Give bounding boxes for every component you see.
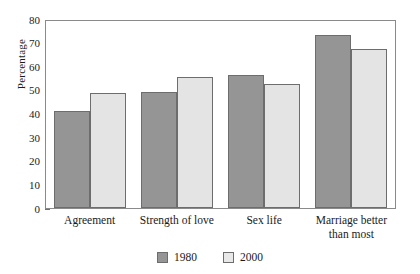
y-axis-title: Percentage [15, 9, 27, 119]
x-axis-label-2: Strength of love [133, 213, 220, 227]
x-axis-label-4: Marriage betterthan most [308, 213, 395, 241]
y-axis-tick-label: 0 [35, 203, 46, 214]
bar-2000-3 [264, 84, 300, 208]
legend-item-2000: 2000 [223, 252, 263, 264]
x-axis-label-line: Agreement [46, 213, 133, 227]
bar-1980-4 [315, 35, 351, 208]
chart-legend: 19802000 [0, 252, 420, 264]
y-axis-tick-label: 40 [29, 109, 45, 120]
light-gray-swatch [223, 252, 234, 263]
dark-gray-swatch [157, 252, 168, 263]
y-axis-tick-label: 70 [29, 38, 45, 49]
bar-1980-1 [54, 111, 90, 208]
bar-1980-3 [228, 75, 264, 208]
y-axis-tick-label: 80 [29, 14, 45, 25]
x-axis-label-line: Marriage better [308, 213, 395, 227]
bar-chart-figure: Percentage 01020304050607080 AgreementSt… [0, 0, 420, 274]
legend-item-1980: 1980 [157, 252, 197, 264]
y-axis-tick-mark [45, 209, 50, 210]
bar-group [46, 21, 133, 208]
y-axis-tick-label: 30 [29, 132, 45, 143]
bar-group [221, 21, 308, 208]
y-axis-tick-label: 60 [29, 61, 45, 72]
bars-container [46, 21, 395, 208]
bar-group [308, 21, 395, 208]
bar-2000-1 [90, 93, 126, 208]
bar-2000-4 [351, 49, 387, 208]
legend-label: 2000 [240, 252, 263, 264]
bar-1980-2 [141, 92, 177, 208]
x-axis-label-line: than most [308, 227, 395, 241]
bar-2000-2 [177, 77, 213, 208]
bar-group [133, 21, 220, 208]
x-axis-label-3: Sex life [221, 213, 308, 227]
x-axis-label-line: Strength of love [133, 213, 220, 227]
x-axis-label-line: Sex life [221, 213, 308, 227]
x-axis-label-1: Agreement [46, 213, 133, 227]
y-axis-tick-label: 20 [29, 156, 45, 167]
y-axis-tick-label: 10 [29, 179, 45, 190]
y-axis-tick-label: 50 [29, 85, 45, 96]
legend-label: 1980 [174, 252, 197, 264]
